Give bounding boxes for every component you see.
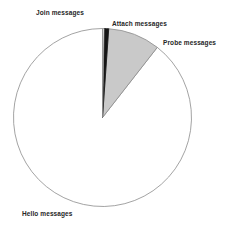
pie-label-hello-messages: Hello messages <box>22 209 73 218</box>
pie-label-join-messages: Join messages <box>36 8 84 17</box>
pie-slice-group <box>13 28 191 206</box>
pie-chart-canvas <box>0 0 241 234</box>
pie-chart: Hello messages Join messages Attach mess… <box>0 0 241 234</box>
pie-label-attach-messages: Attach messages <box>112 19 167 28</box>
pie-label-probe-messages: Probe messages <box>163 38 216 47</box>
